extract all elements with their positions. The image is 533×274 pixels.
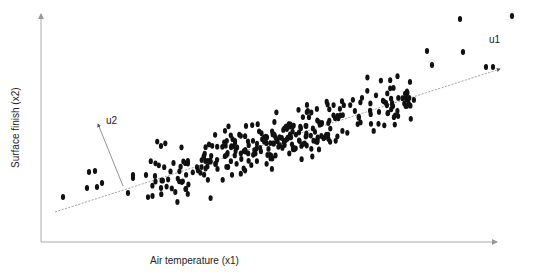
data-point [251,138,255,144]
data-point [159,185,163,191]
data-point [392,114,396,120]
data-point [235,161,239,167]
data-point [165,184,169,190]
data-point [309,133,313,139]
data-point [195,164,199,170]
data-point [171,160,175,166]
data-point [369,121,373,127]
data-point [170,186,174,192]
data-point [386,110,390,116]
data-point [126,190,130,196]
data-point [255,141,259,147]
data-point [226,123,230,129]
data-point [85,185,89,191]
data-point [458,16,462,22]
data-point [153,173,157,179]
data-point [186,182,190,188]
data-point [225,152,229,158]
data-point [484,64,488,70]
data-point [202,172,206,178]
data-point [430,62,434,68]
data-point [304,123,308,129]
data-point [179,144,183,150]
data-point [220,144,224,150]
data-point [247,158,251,164]
data-point [257,128,261,134]
data-point [225,138,229,144]
y-axis-label: Surface finish (x2) [10,87,21,168]
data-point [206,177,210,183]
data-point [269,153,273,159]
data-point [334,138,338,144]
data-point [239,151,243,157]
data-point [317,147,321,153]
data-point [150,193,154,199]
data-point [153,179,157,185]
data-point [93,168,97,174]
u2-label: u2 [106,115,117,126]
data-point [379,78,383,84]
data-point [161,178,165,184]
data-point [336,115,340,121]
data-point [266,146,270,152]
data-point [244,123,248,129]
data-point [163,140,167,146]
data-point [250,122,254,128]
data-point [213,161,217,167]
data-point [229,158,233,164]
data-point [310,154,314,160]
data-point [287,151,291,157]
data-point [412,97,416,103]
data-point [262,139,266,145]
data-point [284,137,288,143]
data-point [179,164,183,170]
data-point [280,145,284,151]
data-point [332,102,336,108]
data-point [298,124,302,130]
data-point [291,145,295,151]
data-point [235,145,239,151]
data-point [408,103,412,109]
data-point [388,85,392,91]
data-point [395,108,399,114]
data-point [300,156,304,162]
data-point [382,122,386,128]
data-point [396,113,400,119]
data-point [461,49,465,55]
data-point [255,158,259,164]
data-point [390,102,394,108]
data-point [146,194,150,200]
data-point [258,145,262,151]
data-point [247,142,251,148]
data-point [221,177,225,183]
data-point [327,106,331,112]
data-point [400,95,404,101]
data-point [404,103,408,109]
data-point [61,194,65,200]
data-point [510,13,514,19]
data-point [184,172,188,178]
data-point [95,184,99,190]
u1-label: u1 [489,34,500,45]
data-point [395,73,399,79]
data-point [356,121,360,127]
data-point [319,133,323,139]
data-point [272,119,276,125]
data-point [230,172,234,178]
data-point [311,138,315,144]
data-point [252,147,256,153]
data-point [357,114,361,120]
data-point [393,122,397,128]
data-point [376,121,380,127]
data-point [358,99,362,105]
data-point [215,144,219,150]
data-point [239,156,243,162]
data-point [166,177,170,183]
data-point [305,109,309,115]
data-point [209,195,213,201]
data-point [284,124,288,130]
data-point [491,64,495,70]
data-point [304,134,308,140]
data-point [215,166,219,172]
data-point [213,132,217,138]
